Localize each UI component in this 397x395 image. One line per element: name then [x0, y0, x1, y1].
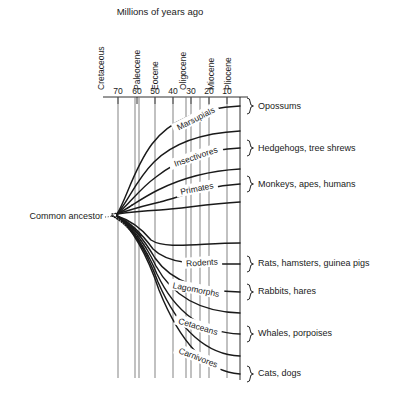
- clade-label-text-marsupials: Marsupials: [175, 105, 216, 133]
- common-name-rodents: Rats, hamsters, guinea pigs: [258, 258, 370, 268]
- clade-label-rodents: Rodents: [182, 255, 223, 269]
- clade-label-marsupials: Marsupials: [171, 102, 221, 135]
- common-name-cetaceans: Whales, porpoises: [258, 328, 333, 338]
- clade-label-text-rodents: Rodents: [186, 256, 218, 268]
- axis-tick-label-10: 10: [222, 86, 232, 96]
- common-name-primates: Monkeys, apes, humans: [258, 179, 356, 189]
- common-name-annotations: OpossumsHedgehogs, tree shrewsMonkeys, a…: [247, 98, 370, 382]
- brace-carnivores: [247, 366, 253, 382]
- clade-label-text-cetaceans: Cetaceans: [177, 316, 219, 337]
- axis-tick-label-40: 40: [168, 86, 178, 96]
- axis-tick-label-70: 70: [113, 86, 123, 96]
- common-name-marsupials: Opossums: [258, 101, 302, 111]
- common-name-carnivores: Cats, dogs: [258, 368, 302, 378]
- clade-label-text-insectivores: Insectivores: [173, 144, 219, 168]
- clade-label-primates: Primates: [175, 179, 218, 198]
- axis-title: Millions of years ago: [117, 6, 204, 17]
- axis-tick-label-20: 20: [204, 86, 214, 96]
- brace-primates: [247, 176, 253, 192]
- common-ancestor-label: Common ancestor: [29, 211, 103, 221]
- axis-tick-label-60: 60: [132, 86, 142, 96]
- brace-lagomorphs: [247, 284, 253, 300]
- clade-labels: MarsupialsInsectivoresPrimatesRodentsLag…: [167, 102, 224, 371]
- clade-label-lagomorphs: Lagomorphs: [168, 278, 225, 299]
- clade-label-carnivores: Carnivores: [173, 343, 224, 371]
- epoch-label-group: CretaceousPaleoceneEoceneOligoceneMiocen…: [96, 47, 233, 90]
- phylogenetic-tree-figure: Millions of years ago CretaceousPaleocen…: [0, 0, 397, 395]
- brace-rodents: [247, 256, 253, 272]
- time-axis: 70605040302010: [103, 86, 248, 105]
- common-name-insectivores: Hedgehogs, tree shrews: [258, 143, 356, 153]
- epoch-label-cretaceous: Cretaceous: [96, 47, 106, 90]
- mammal-phylogeny-chart: Millions of years ago CretaceousPaleocen…: [0, 0, 397, 395]
- brace-insectivores: [247, 140, 253, 156]
- epoch-label-oligocene: Oligocene: [178, 51, 188, 90]
- axis-tick-label-50: 50: [150, 86, 160, 96]
- common-name-lagomorphs: Rabbits, hares: [258, 286, 317, 296]
- brace-marsupials: [247, 98, 253, 114]
- brace-cetaceans: [247, 326, 253, 342]
- axis-tick-label-30: 30: [186, 86, 196, 96]
- epoch-label-paleocene: Paleocene: [132, 50, 142, 90]
- clade-label-text-lagomorphs: Lagomorphs: [172, 280, 220, 299]
